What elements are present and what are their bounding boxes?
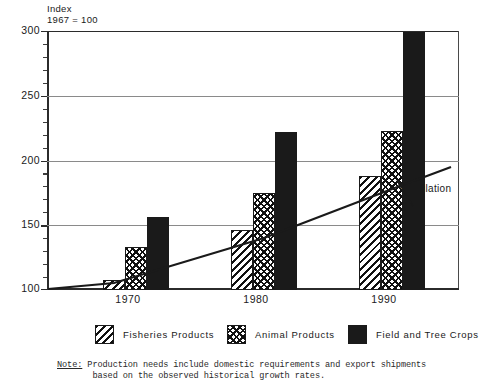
ylabel-150: 150: [6, 218, 40, 230]
chart-footnote: Note: Production needs include domestic …: [57, 360, 479, 381]
population-trend-line: [47, 31, 459, 290]
legend-item-animal-products: Animal Products: [227, 325, 335, 344]
ylabel-250: 250: [6, 89, 40, 101]
legend-swatch-diagonal-hatch-icon: [95, 325, 114, 344]
legend-swatch-solid-black-icon: [348, 325, 367, 344]
ylabel-200: 200: [6, 154, 40, 166]
legend-label-fisheries-products: Fisheries Products: [123, 329, 214, 340]
legend-label-animal-products: Animal Products: [255, 329, 335, 340]
ylabel-300: 300: [6, 24, 40, 36]
legend-item-field-and-tree-crops: Field and Tree Crops: [348, 325, 479, 344]
legend-label-field-and-tree-crops: Field and Tree Crops: [376, 329, 479, 340]
footnote-label: Note:: [57, 360, 82, 370]
chart-container: Index1967 = 100 300 250 200 150 100: [0, 0, 479, 381]
xlabel-1970: 1970: [93, 293, 163, 305]
legend-item-fisheries-products: Fisheries Products: [95, 325, 214, 344]
ylabel-100: 100: [6, 282, 40, 294]
footnote-line1: Production needs include domestic requir…: [82, 360, 426, 370]
axis-caption: Index1967 = 100: [47, 3, 98, 25]
footnote-line2: based on the observed historical growth …: [57, 371, 325, 381]
plot-area: 300 250 200 150 100: [47, 31, 459, 290]
xlabel-1990: 1990: [349, 293, 419, 305]
chart-legend: Fisheries Products Animal Products Field…: [0, 325, 479, 349]
legend-swatch-cross-hatch-icon: [227, 325, 246, 344]
population-annotation-label: Population: [401, 183, 451, 194]
xlabel-1980: 1980: [221, 293, 291, 305]
axis-caption-line2: 1967 = 100: [47, 14, 98, 25]
axis-caption-line1: Index: [47, 3, 72, 14]
